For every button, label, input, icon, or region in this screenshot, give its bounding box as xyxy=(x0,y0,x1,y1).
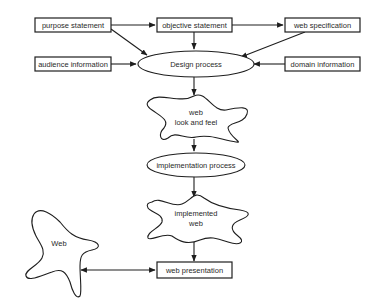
label-purpose-statement: purpose statement xyxy=(42,21,105,30)
node-web-specification: web specification xyxy=(285,18,360,32)
label-look-feel-line1: web xyxy=(188,108,203,117)
label-implemented-web-line1: implemented xyxy=(175,209,218,218)
label-domain-information: domain information xyxy=(291,60,355,69)
label-audience-information: audience information xyxy=(38,60,108,69)
design-process-diagram: purpose statement objective statement we… xyxy=(0,0,380,302)
label-look-feel-line2: look and feel xyxy=(175,118,218,127)
edge-webspec-to-design xyxy=(241,32,305,57)
label-implemented-web-line2: web xyxy=(188,219,203,228)
label-web: Web xyxy=(51,239,66,248)
label-implementation-process: implementation process xyxy=(156,161,235,170)
label-objective-statement: objective statement xyxy=(162,21,228,30)
label-design-process: Design process xyxy=(170,60,222,69)
label-web-specification: web specification xyxy=(293,21,351,30)
node-objective-statement: objective statement xyxy=(157,18,232,32)
node-web: Web xyxy=(26,211,99,297)
node-design-process: Design process xyxy=(138,51,254,77)
node-implementation-process: implementation process xyxy=(147,153,245,177)
node-audience-information: audience information xyxy=(35,57,111,71)
node-purpose-statement: purpose statement xyxy=(35,18,111,32)
node-web-look-and-feel: web look and feel xyxy=(147,95,247,142)
node-web-presentation: web presentation xyxy=(157,262,232,278)
node-implemented-web: implemented web xyxy=(147,195,248,244)
edge-purpose-to-design xyxy=(111,29,147,55)
node-domain-information: domain information xyxy=(285,57,360,71)
label-web-presentation: web presentation xyxy=(165,266,223,275)
